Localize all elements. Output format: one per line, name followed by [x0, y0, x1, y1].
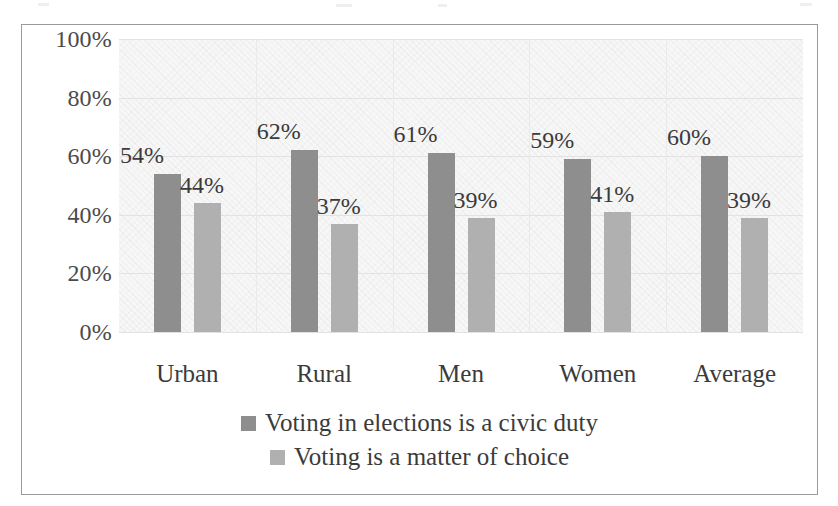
data-label: 41%: [590, 182, 634, 206]
data-label: 62%: [257, 119, 301, 143]
legend-label: Voting in elections is a civic duty: [265, 410, 598, 435]
gridline: [119, 39, 803, 40]
bar-average-series1[interactable]: [701, 156, 728, 332]
data-label: 60%: [667, 125, 711, 149]
gridline: [119, 98, 803, 99]
data-label: 61%: [394, 122, 438, 146]
y-axis-tick-label: 100%: [34, 27, 112, 51]
y-axis-tick-label: 60%: [34, 144, 112, 168]
category-label-average: Average: [693, 361, 776, 386]
data-label: 39%: [727, 188, 771, 212]
bar-women-series1[interactable]: [564, 159, 591, 332]
scan-artifact: [38, 3, 49, 6]
scan-artifact: [800, 3, 812, 6]
data-label: 54%: [120, 143, 164, 167]
legend-item-series2[interactable]: Voting is a matter of choice: [270, 444, 569, 469]
gridline: [119, 332, 803, 333]
y-axis-tick-label: 20%: [34, 261, 112, 285]
bar-urban-series2[interactable]: [194, 203, 221, 332]
legend-label: Voting is a matter of choice: [294, 444, 569, 469]
bar-women-series2[interactable]: [604, 212, 631, 332]
data-label: 59%: [530, 128, 574, 152]
legend-swatch-icon: [241, 416, 256, 431]
scan-artifact: [336, 4, 352, 7]
category-label-urban: Urban: [156, 361, 218, 386]
chart-frame: 100%80%60%40%20%0% 54%44%62%37%61%39%59%…: [21, 24, 818, 495]
data-label: 39%: [454, 188, 498, 212]
category-separator: [393, 39, 394, 332]
legend-swatch-icon: [270, 450, 285, 465]
y-axis-tick-label: 80%: [34, 86, 112, 110]
category-separator: [666, 39, 667, 332]
y-axis-tick-label: 0%: [34, 320, 112, 344]
y-axis: 100%80%60%40%20%0%: [22, 39, 112, 332]
category-label-men: Men: [438, 361, 484, 386]
bar-men-series1[interactable]: [428, 153, 455, 332]
scan-artifact: [438, 4, 447, 7]
bar-average-series2[interactable]: [741, 218, 768, 332]
data-label: 44%: [180, 173, 224, 197]
bar-rural-series1[interactable]: [291, 150, 318, 332]
legend-item-series1[interactable]: Voting in elections is a civic duty: [241, 410, 598, 435]
data-label: 37%: [317, 194, 361, 218]
y-axis-tick-label: 40%: [34, 203, 112, 227]
category-label-rural: Rural: [296, 361, 352, 386]
category-separator: [529, 39, 530, 332]
plot-area: 54%44%62%37%61%39%59%41%60%39%: [119, 39, 803, 332]
bar-rural-series2[interactable]: [331, 224, 358, 332]
bar-men-series2[interactable]: [468, 218, 495, 332]
bar-urban-series1[interactable]: [154, 174, 181, 332]
category-label-women: Women: [559, 361, 636, 386]
chart-legend: Voting in elections is a civic dutyVotin…: [22, 410, 817, 469]
category-separator: [256, 39, 257, 332]
